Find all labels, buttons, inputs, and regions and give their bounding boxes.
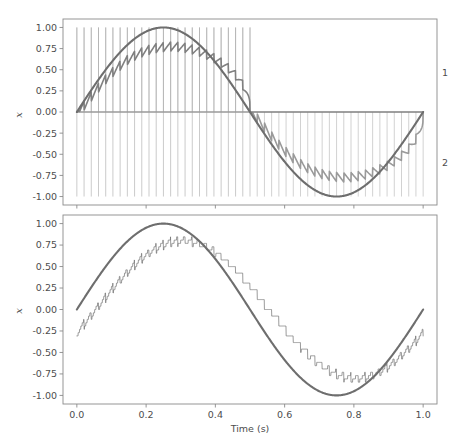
y-tick-label: 0.75 xyxy=(36,239,57,250)
series-annotation-1: 1 xyxy=(442,67,448,78)
matplotlib-figure: 1.000.750.500.250.00-0.25-0.50-0.75-1.00… xyxy=(0,0,470,446)
y-tick-label: 0.25 xyxy=(36,282,57,293)
figure-container: 1.000.750.500.250.00-0.25-0.50-0.75-1.00… xyxy=(0,0,470,446)
x-tick-label: 1.0 xyxy=(416,409,431,420)
x-tick-label: 0.0 xyxy=(69,409,84,420)
y-tick-label: -0.75 xyxy=(32,170,57,181)
y-tick-label: 0.75 xyxy=(36,43,57,54)
top-panel: 1.000.750.500.250.00-0.25-0.50-0.75-1.00… xyxy=(13,19,448,209)
curve-group-bottom xyxy=(77,224,423,396)
y-tick-label: 0.50 xyxy=(36,64,57,75)
y-tick-label: 0.50 xyxy=(36,261,57,272)
sine-reference-curve-bottom xyxy=(77,224,423,396)
series-annotation-2: 2 xyxy=(442,157,448,168)
y-tick-label: -0.75 xyxy=(32,368,57,379)
y-tick-label: -0.50 xyxy=(32,149,57,160)
x-tick-label: 0.4 xyxy=(208,409,223,420)
y-tick-label: 0.00 xyxy=(36,106,57,117)
y-axis-label-bottom: x xyxy=(13,308,24,314)
x-tick-group-top xyxy=(77,205,423,209)
y-tick-group-top: 1.000.750.500.250.00-0.25-0.50-0.75-1.00 xyxy=(32,22,63,202)
x-tick-label: 0.8 xyxy=(346,409,361,420)
y-tick-label: 1.00 xyxy=(36,218,57,229)
x-tick-group-bottom: 0.00.20.40.60.81.0 xyxy=(69,404,430,420)
y-tick-label: -0.50 xyxy=(32,347,57,358)
y-tick-label: 0.25 xyxy=(36,85,57,96)
y-tick-label: -1.00 xyxy=(32,390,57,401)
x-tick-label: 0.2 xyxy=(139,409,154,420)
x-tick-label: 0.6 xyxy=(277,409,292,420)
y-tick-label: 1.00 xyxy=(36,22,57,33)
y-axis-label-top: x xyxy=(13,112,24,118)
y-tick-label: -0.25 xyxy=(32,325,57,336)
x-axis-label-bottom: Time (s) xyxy=(230,423,270,434)
bottom-panel: 1.000.750.500.250.00-0.25-0.50-0.75-1.00… xyxy=(13,215,437,434)
y-tick-label: -1.00 xyxy=(32,191,57,202)
y-tick-label: -0.25 xyxy=(32,128,57,139)
y-tick-group-bottom: 1.000.750.500.250.00-0.25-0.50-0.75-1.00 xyxy=(32,218,63,401)
y-tick-label: 0.00 xyxy=(36,304,57,315)
